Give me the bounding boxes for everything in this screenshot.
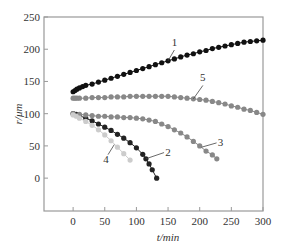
data-point [203,48,208,53]
data-point [216,45,221,50]
data-point [260,112,265,117]
leader-line [202,143,217,147]
data-point [254,38,259,43]
data-point [102,125,107,130]
data-point [115,145,120,150]
data-point [178,54,183,59]
data-point [102,78,107,83]
data-point [154,176,159,181]
series-1 [71,38,266,95]
data-point [235,105,240,110]
data-point [96,114,101,119]
data-point [108,138,113,143]
data-point [127,140,132,145]
data-point [96,121,101,126]
data-point [159,94,164,99]
data-point [222,101,227,106]
data-point [115,132,120,137]
data-point [214,156,219,161]
data-point [83,96,88,101]
data-point [150,167,155,172]
data-point [203,98,208,103]
x-tick-label: 100 [128,215,145,227]
series-label-3: 3 [218,136,224,148]
data-point [191,51,196,56]
y-tick-label: 200 [24,43,41,55]
data-point [108,94,113,99]
data-point [197,143,202,148]
data-point [172,94,177,99]
data-point [134,116,139,121]
data-point [241,107,246,112]
x-tick-label: 300 [255,215,272,227]
x-tick-label: 200 [191,215,208,227]
data-point [115,74,120,79]
data-point [229,103,234,108]
data-point [102,132,107,137]
data-point [127,70,132,75]
data-point [121,94,126,99]
data-point [83,83,88,88]
y-tick-label: 250 [24,11,41,23]
chart: 050100150200250300050100150200250 15324 … [0,0,287,248]
x-tick-label: 250 [223,215,240,227]
data-point [146,64,151,69]
series-label-4: 4 [103,153,109,165]
data-point [191,96,196,101]
data-point [172,127,177,132]
leader-line [193,85,202,98]
data-point [159,121,164,126]
data-point [90,95,95,100]
data-point [146,118,151,123]
data-point [178,130,183,135]
data-point [146,161,151,166]
y-axis-label: r/μm [12,104,24,125]
data-point [184,134,189,139]
data-point [115,94,120,99]
data-point [140,94,145,99]
data-point [153,119,158,124]
data-point [222,43,227,48]
data-point [229,42,234,47]
data-point [127,94,132,99]
data-point [235,41,240,46]
data-point [248,108,253,113]
data-point [115,114,120,119]
data-point [153,62,158,67]
y-tick-label: 50 [29,140,41,152]
data-point [83,112,88,117]
data-point [165,58,170,63]
data-point [140,152,145,157]
leader-line [146,153,164,159]
series-label-5: 5 [200,71,206,83]
data-point [102,114,107,119]
data-point [90,113,95,118]
series-label-2: 2 [165,146,171,158]
data-point [210,152,215,157]
x-tick-label: 150 [160,215,177,227]
data-point [159,60,164,65]
series-5 [71,94,266,117]
data-point [203,148,208,153]
data-point [127,115,132,120]
data-point [260,38,265,43]
data-point [121,115,126,120]
data-point [90,118,95,123]
data-point [121,136,126,141]
data-point [165,94,170,99]
series-label-1: 1 [172,36,178,48]
data-series [71,38,266,181]
data-point [134,94,139,99]
data-point [83,119,88,124]
data-point [254,110,259,115]
data-point [96,95,101,100]
series-line [73,96,263,114]
data-point [178,95,183,100]
data-point [210,99,215,104]
data-point [216,100,221,105]
data-point [146,94,151,99]
data-point [140,66,145,71]
data-point [184,96,189,101]
data-point [90,123,95,128]
data-point [153,94,158,99]
